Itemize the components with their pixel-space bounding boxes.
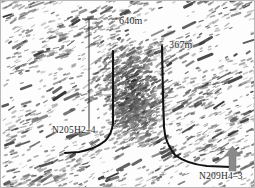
distance-label-640m: 640m <box>119 15 143 26</box>
well-label-n209h4-3: N209H4–3 <box>199 171 243 181</box>
microseismic-map-figure: 640m 367m N205H2–4 N209H4–3 <box>0 0 255 188</box>
well-label-n205h2-4: N205H2–4 <box>52 125 96 135</box>
measure-line-640 <box>82 19 97 131</box>
well-trajectory-n209h4-3 <box>162 46 231 167</box>
distance-label-367m: 367m <box>169 39 193 50</box>
